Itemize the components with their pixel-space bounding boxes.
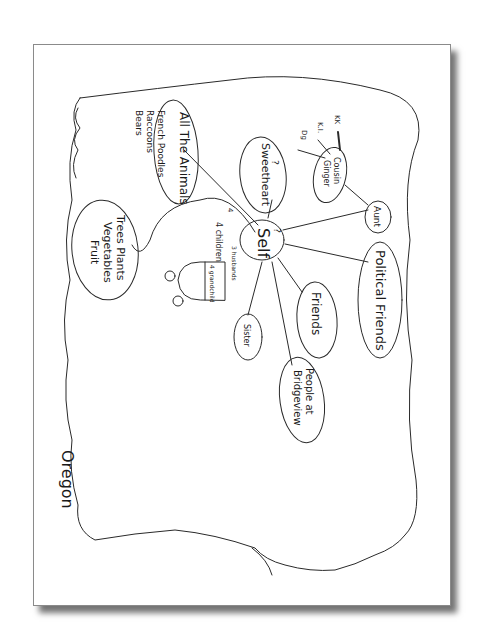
stroller-icon (178, 262, 225, 300)
label-ginger: Ginger (322, 160, 331, 187)
mind-map-canvas: Self ? All The Animals French Poodles Ra… (0, 0, 481, 644)
label-sister: Sister (242, 324, 251, 348)
note-grandchild: 4 grandchild (208, 265, 216, 303)
note-children: 4 children (214, 222, 223, 262)
label-plants-3: Fruit (88, 240, 101, 265)
label-bridgeview-2: Bridgeview (292, 370, 303, 426)
oregon-outline (64, 77, 418, 571)
river-line (252, 548, 272, 575)
label-cousin-child-1: KK (333, 115, 341, 125)
label-bridgeview-1: People at (304, 368, 315, 415)
connector-plants (132, 198, 255, 251)
label-friends: Friends (309, 292, 323, 335)
label-oregon: Oregon (58, 450, 77, 509)
note-bears: Bears (134, 110, 144, 136)
stroller-wheel-icon (165, 271, 175, 281)
connector-friends (278, 258, 302, 292)
label-self-mark: ? (272, 228, 282, 233)
connector-aunt (283, 210, 368, 230)
label-plants-1: Trees Plants (114, 214, 127, 281)
note-husbands: 3 husbands (231, 246, 238, 281)
connector-political (285, 244, 368, 262)
connector-sister (248, 262, 262, 315)
label-cousin: Cousin (332, 157, 341, 184)
label-self: Self (254, 228, 273, 258)
note-poodles: French Poodles (156, 110, 166, 178)
note-mark: 4 (226, 208, 234, 213)
label-aunt: Aunt (372, 206, 382, 228)
label-plants-2: Vegetables (101, 222, 114, 283)
connector-animals (184, 150, 258, 225)
label-cousin-child-3: Dg (300, 130, 308, 140)
label-cousin-child-2: K.I. (316, 122, 324, 133)
stroller-wheel-icon (173, 296, 183, 306)
coast-squiggle (73, 108, 80, 178)
connector-bridgeview (272, 262, 292, 365)
label-animals: All The Animals (177, 112, 191, 205)
connector-cousin-aunt (345, 185, 368, 205)
label-political: Political Friends (373, 250, 388, 351)
label-sweetheart: Sweetheart (259, 143, 272, 207)
label-sweetheart-mark: ? (270, 160, 280, 165)
note-raccoons: Raccoons (145, 110, 155, 153)
